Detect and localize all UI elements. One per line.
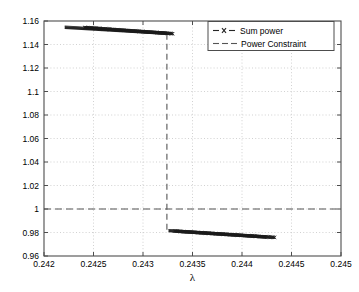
sum-power-vs-lambda-chart: 0.96 0.98 1 1.02 1.04 1.06 1.08 1.1 1.12… <box>0 0 359 292</box>
figure-canvas: 0.96 0.98 1 1.02 1.04 1.06 1.08 1.1 1.12… <box>0 0 359 292</box>
y-tick-label: 0.98 <box>22 228 39 238</box>
y-tick-label: 1.06 <box>22 134 39 144</box>
y-axis-tick-labels: 0.96 0.98 1 1.02 1.04 1.06 1.08 1.1 1.12… <box>22 16 39 261</box>
y-tick-label: 1.02 <box>22 181 39 191</box>
y-tick-label: 1 <box>34 204 39 214</box>
x-tick-label: 0.2425 <box>81 259 107 269</box>
y-tick-label: 1.12 <box>22 63 39 73</box>
y-tick-label: 1.08 <box>22 110 39 120</box>
x-tick-label: 0.244 <box>231 259 253 269</box>
x-tick-label: 0.245 <box>330 259 352 269</box>
x-tick-label: 0.242 <box>33 259 55 269</box>
y-tick-label: 1.16 <box>22 16 39 26</box>
x-axis-label: λ <box>190 271 196 283</box>
x-tick-label: 0.2435 <box>180 259 206 269</box>
y-tick-label: 1.1 <box>27 87 39 97</box>
y-tick-label: 1.04 <box>22 157 39 167</box>
x-tick-label: 0.243 <box>132 259 154 269</box>
x-axis-tick-labels: 0.242 0.2425 0.243 0.2435 0.244 0.2445 0… <box>33 259 352 269</box>
y-tick-label: 1.14 <box>22 40 39 50</box>
x-tick-label: 0.2445 <box>279 259 305 269</box>
legend[interactable]: Sum power Power Constraint <box>208 22 334 51</box>
legend-label-sum-power: Sum power <box>240 26 283 36</box>
legend-label-power-constraint: Power Constraint <box>241 39 307 49</box>
